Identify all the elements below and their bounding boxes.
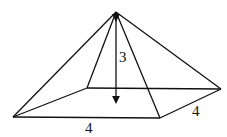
base-back-edge [87, 88, 221, 89]
base-front-edge [13, 117, 160, 118]
base-right-edge [160, 89, 221, 118]
base-left-edge [13, 88, 87, 117]
pyramid-figure: 3 4 4 [0, 0, 227, 137]
height-label: 3 [119, 49, 127, 65]
lateral-edge-front-left [13, 12, 116, 117]
base-side-label: 4 [192, 103, 200, 119]
lateral-edge-back-left [87, 12, 116, 88]
base-front-label: 4 [85, 120, 93, 136]
pyramid-diagram: 3 4 4 [0, 0, 227, 137]
